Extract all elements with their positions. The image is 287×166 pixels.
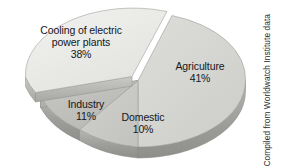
- source-credit: Compiled from Worldwatch Institute data: [260, 14, 274, 166]
- pie-chart-figure: Cooling of electric power plants 38% Agr…: [0, 0, 287, 166]
- pie-chart-graphic: [0, 0, 287, 166]
